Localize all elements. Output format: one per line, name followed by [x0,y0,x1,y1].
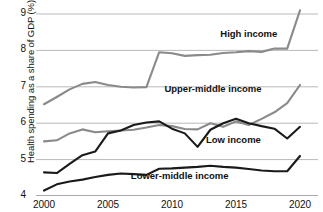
x-tick-label: 2000 [24,199,64,210]
series-label-high-income: High income [220,28,277,39]
y-tick-label: 5 [10,153,26,164]
series-label-low-income: Low income [206,134,261,145]
y-tick-label: 8 [10,43,26,54]
chart-container: Health spending as a share of GDP (%) 45… [0,0,323,212]
y-tick-label: 7 [10,80,26,91]
x-tick-label: 2015 [216,199,256,210]
x-tick-label: 2005 [88,199,128,210]
y-tick-label: 6 [10,116,26,127]
series-label-upper-middle-income: Upper-middle income [164,83,261,94]
y-tick-label: 9 [10,7,26,18]
x-tick-label: 2010 [152,199,192,210]
x-tick-label: 2020 [280,199,320,210]
series-label-lower-middle-income: Lower-middle income [131,170,229,181]
